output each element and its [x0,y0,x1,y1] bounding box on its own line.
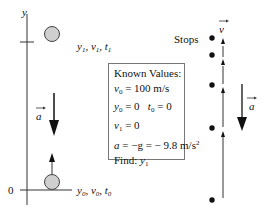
known-v0: v0 = 100 m/s [114,81,184,100]
velocity-arrow-icon [221,131,225,137]
velocity-arrow-icon [221,38,225,44]
accel-label: a [36,110,42,122]
known-y0-t0: y0 = 0 t0 = 0 [114,99,184,118]
velocity-label: v [219,23,224,35]
known-values-title: Known Values: [114,66,184,81]
accel-arrowhead-right-icon [237,117,247,131]
velocity-arrow-icon [221,87,225,93]
motion-dot [209,125,214,130]
ball-bottom-icon [45,175,60,190]
motion-dot [209,52,214,57]
ball-top-icon [45,27,60,42]
bottom-ball-label: y0, v0, t0 [77,184,111,200]
stop-dot [209,35,214,40]
known-values-box: Known Values: v0 = 100 m/s y0 = 0 t0 = 0… [108,63,185,160]
velocity-arrowhead-icon [49,153,55,162]
motion-dot [209,197,214,202]
zero-label: 0 [8,184,14,196]
accel-arrowhead-icon [49,120,59,136]
top-ball-label: y1, v1, t1 [77,40,111,56]
known-a: a = −g = − 9.8 m/s2 [114,136,184,153]
y-axis-label: y [22,6,27,18]
known-v1: v1 = 0 [114,118,184,137]
find-y1: Find: y1 [114,153,184,172]
accel-right-label: a [249,100,255,112]
velocity-arrow-icon [221,59,225,65]
motion-dot [209,82,214,87]
stops-label: Stops [174,33,198,45]
